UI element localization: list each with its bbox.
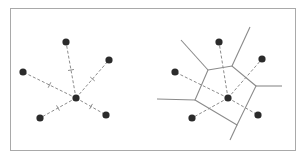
site-point xyxy=(62,38,69,45)
site-point xyxy=(215,38,222,45)
voronoi-ray xyxy=(157,99,195,100)
site-point xyxy=(72,94,79,101)
site-point xyxy=(105,56,112,63)
dashed-connection xyxy=(219,42,228,98)
voronoi-ray xyxy=(232,27,250,66)
site-point xyxy=(171,68,178,75)
site-point xyxy=(224,94,231,101)
site-point xyxy=(102,111,109,118)
site-point xyxy=(19,68,26,75)
site-point xyxy=(188,114,195,121)
site-point xyxy=(36,114,43,121)
site-point xyxy=(254,111,261,118)
voronoi-ray xyxy=(230,125,237,140)
voronoi-diagram xyxy=(0,0,306,158)
left-panel-dashed-connections xyxy=(23,42,109,118)
left-panel-bisector-ticks xyxy=(48,69,95,110)
voronoi-ray xyxy=(181,40,208,70)
site-point xyxy=(258,55,265,62)
bisector-tick xyxy=(68,69,74,70)
bisector-tick xyxy=(90,104,93,109)
